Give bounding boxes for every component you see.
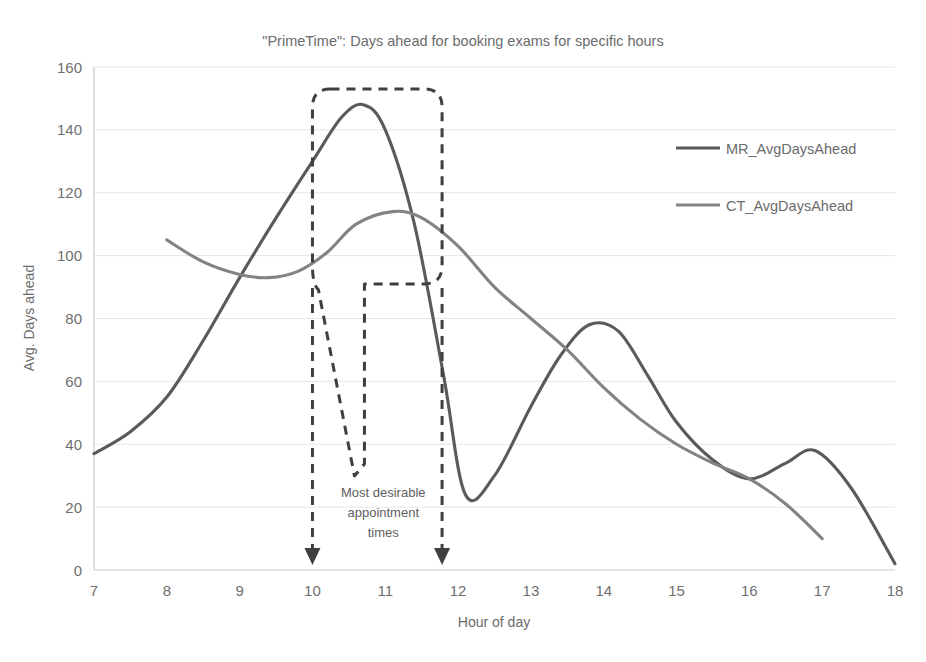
legend-label-mr: MR_AvgDaysAhead bbox=[726, 141, 856, 157]
x-tick-label-14: 14 bbox=[595, 582, 612, 599]
annotation-text-line-1: Most desirable bbox=[341, 485, 426, 500]
y-tick-label-20: 20 bbox=[65, 499, 82, 516]
chart-title: "PrimeTime": Days ahead for booking exam… bbox=[262, 33, 663, 49]
y-tick-label-160: 160 bbox=[57, 59, 82, 76]
y-tick-label-120: 120 bbox=[57, 184, 82, 201]
annotation-text-line-3: times bbox=[368, 525, 400, 540]
legend-label-ct: CT_AvgDaysAhead bbox=[726, 198, 853, 214]
y-tick-label-80: 80 bbox=[65, 310, 82, 327]
y-tick-label-60: 60 bbox=[65, 373, 82, 390]
x-tick-label-11: 11 bbox=[377, 582, 393, 599]
primetime-line-chart: "PrimeTime": Days ahead for booking exam… bbox=[0, 0, 926, 662]
x-tick-label-17: 17 bbox=[814, 582, 831, 599]
x-axis-title: Hour of day bbox=[458, 614, 530, 630]
y-tick-label-100: 100 bbox=[57, 247, 82, 264]
annotation-text-line-2: appointment bbox=[347, 505, 419, 520]
x-tick-label-18: 18 bbox=[887, 582, 904, 599]
x-tick-label-8: 8 bbox=[163, 582, 171, 599]
y-tick-label-140: 140 bbox=[57, 121, 82, 138]
y-axis-title: Avg. Days ahead bbox=[21, 265, 37, 371]
y-tick-label-40: 40 bbox=[65, 436, 82, 453]
x-tick-label-10: 10 bbox=[304, 582, 321, 599]
x-tick-label-7: 7 bbox=[90, 582, 98, 599]
chart-container: "PrimeTime": Days ahead for booking exam… bbox=[0, 0, 926, 662]
x-tick-label-13: 13 bbox=[523, 582, 540, 599]
x-tick-label-9: 9 bbox=[235, 582, 243, 599]
y-tick-label-0: 0 bbox=[74, 562, 82, 579]
x-tick-label-16: 16 bbox=[741, 582, 758, 599]
chart-background bbox=[0, 0, 926, 662]
x-tick-label-12: 12 bbox=[450, 582, 467, 599]
x-tick-label-15: 15 bbox=[668, 582, 685, 599]
